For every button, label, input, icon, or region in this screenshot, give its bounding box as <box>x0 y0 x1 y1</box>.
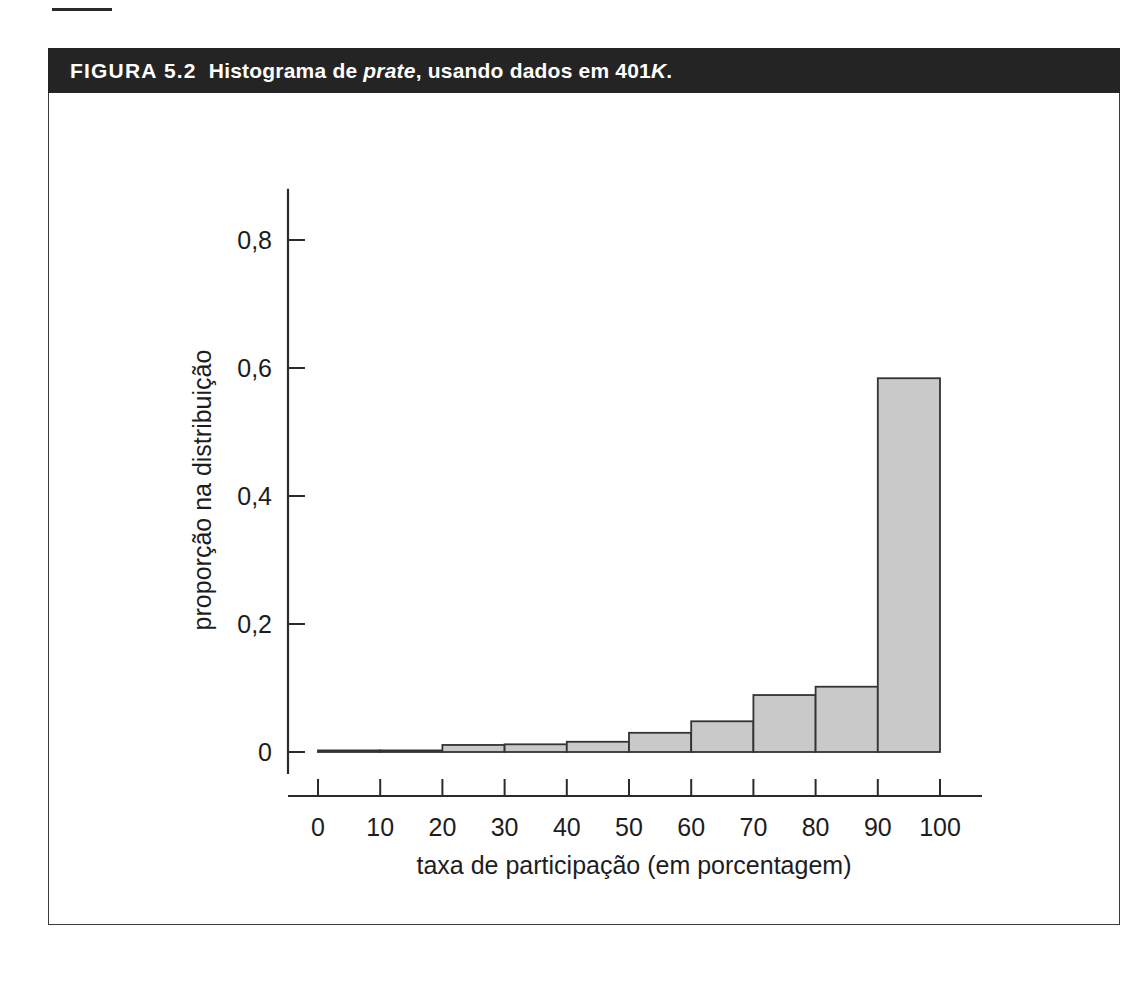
figure-title-text: FIGURA 5.2 Histograma de prate, usando d… <box>48 59 672 83</box>
figure-title-banner: FIGURA 5.2 Histograma de prate, usando d… <box>48 48 1120 93</box>
figure-caption-mid: , usando dados em 401 <box>416 59 651 82</box>
figure-caption-variable-k: K <box>651 59 666 82</box>
page-rule-artifact <box>52 8 112 11</box>
figure-caption-variable-prate: prate <box>363 59 415 82</box>
figure-caption-suffix: . <box>666 59 672 82</box>
figure-caption-prefix: Histograma de <box>209 59 364 82</box>
figure-number: FIGURA 5.2 <box>70 59 197 82</box>
figure-frame <box>48 48 1120 925</box>
